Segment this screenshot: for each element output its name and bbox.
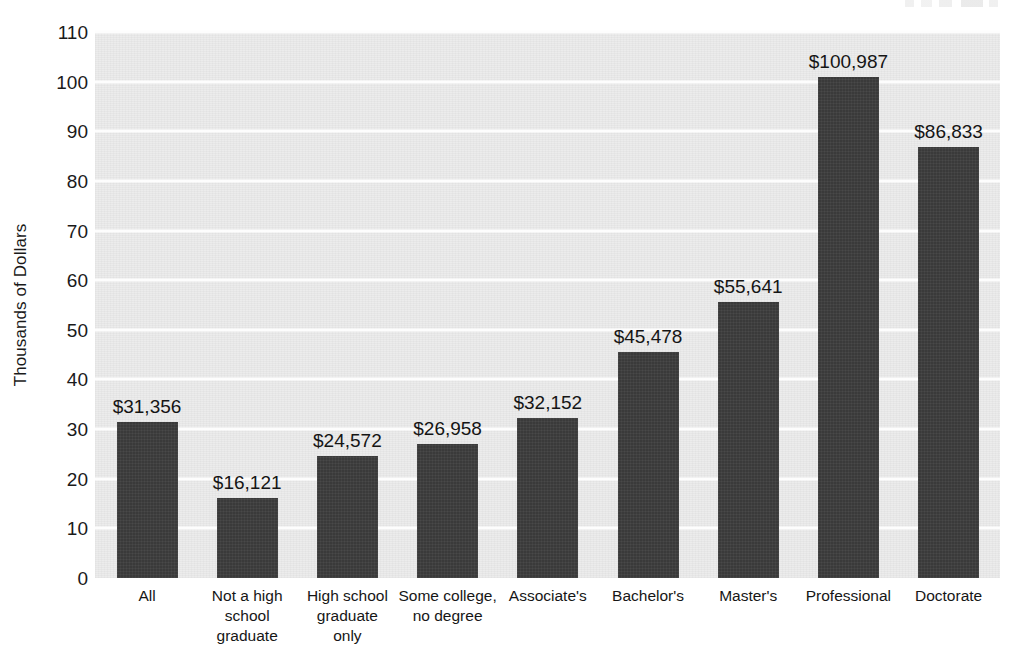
x-axis-label-8: Doctorate (887, 586, 1011, 606)
gridline-110 (95, 31, 1000, 34)
bar (217, 498, 278, 578)
y-axis-tick-100: 100 (56, 72, 88, 91)
y-axis-tick-50: 50 (67, 320, 88, 339)
bar-value-label: $24,572 (313, 431, 382, 450)
x-axis-label-line: no degree (386, 606, 510, 626)
bar (317, 456, 378, 578)
x-axis-label-line: only (285, 626, 409, 646)
y-axis-title-text: Thousands of Dollars (11, 224, 31, 387)
y-axis-title: Thousands of Dollars (8, 0, 34, 610)
bar-chart: Thousands of Dollars 0102030405060708090… (0, 0, 1017, 649)
y-axis-tick-0: 0 (77, 569, 88, 588)
bar-value-label: $32,152 (513, 393, 582, 412)
bar-value-label: $45,478 (614, 327, 683, 346)
plot-area: $31,356$16,121$24,572$26,958$32,152$45,4… (95, 32, 1000, 578)
scan-artifact (905, 0, 1010, 7)
bar (718, 302, 779, 578)
y-axis-tick-70: 70 (67, 221, 88, 240)
bar-value-label: $31,356 (113, 397, 182, 416)
bar (417, 444, 478, 578)
bar (618, 352, 679, 578)
y-axis-tick-30: 30 (67, 420, 88, 439)
bar-value-label: $26,958 (413, 419, 482, 438)
y-axis-tick-10: 10 (67, 519, 88, 538)
y-axis-tick-90: 90 (67, 122, 88, 141)
x-axis-label-line: Doctorate (887, 586, 1011, 606)
bar (918, 147, 979, 578)
y-axis-tick-110: 110 (58, 23, 88, 42)
y-axis-tick-20: 20 (67, 469, 88, 488)
bar-value-label: $55,641 (714, 277, 783, 296)
bar (517, 418, 578, 578)
bar (117, 422, 178, 578)
y-axis-tick-60: 60 (67, 271, 88, 290)
y-axis-tick-labels: 0102030405060708090100110 (36, 0, 88, 649)
bar-value-label: $100,987 (809, 52, 888, 71)
y-axis-tick-40: 40 (67, 370, 88, 389)
y-axis-tick-80: 80 (67, 171, 88, 190)
bar (818, 77, 879, 578)
bar-value-label: $86,833 (914, 122, 983, 141)
x-axis-category-labels: AllNot a highschoolgraduateHigh schoolgr… (95, 586, 1000, 649)
bar-value-label: $16,121 (213, 473, 282, 492)
